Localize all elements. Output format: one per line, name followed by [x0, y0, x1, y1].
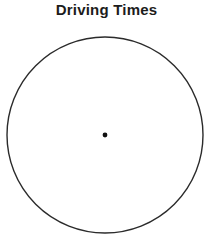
- pie-chart: [0, 0, 213, 242]
- pie-center-dot: [103, 133, 108, 138]
- pie-chart-svg: [0, 0, 213, 242]
- chart-page: Driving Times: [0, 0, 213, 242]
